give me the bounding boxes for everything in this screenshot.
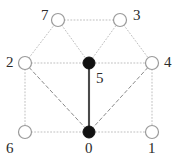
node-label-2: 2 — [6, 55, 14, 70]
edge-2-7 — [25, 20, 58, 63]
node-3[interactable] — [114, 14, 127, 27]
edge-7-5 — [58, 20, 89, 63]
node-7[interactable] — [52, 14, 65, 27]
node-label-5: 5 — [96, 71, 104, 86]
node-6[interactable] — [19, 126, 32, 139]
edge-3-4 — [120, 20, 152, 63]
edges-layer — [25, 20, 152, 132]
node-label-0: 0 — [85, 141, 93, 156]
node-5[interactable] — [83, 57, 95, 69]
edge-5-3 — [89, 20, 120, 63]
node-2[interactable] — [19, 57, 32, 70]
node-0[interactable] — [83, 126, 95, 138]
node-label-4: 4 — [164, 55, 172, 70]
node-label-3: 3 — [133, 8, 141, 23]
node-label-6: 6 — [6, 141, 14, 156]
node-label-1: 1 — [148, 141, 156, 156]
node-1[interactable] — [146, 126, 159, 139]
graph-canvas — [0, 0, 180, 161]
node-4[interactable] — [146, 57, 159, 70]
edge-2-0 — [25, 63, 89, 132]
graph-figure: 01234567 — [0, 0, 180, 161]
node-label-7: 7 — [41, 8, 49, 23]
